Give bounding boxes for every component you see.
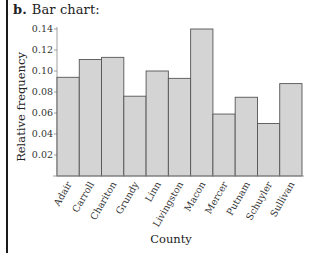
y-axis: 0.020.040.060.080.100.120.14 [32, 23, 57, 176]
bar-chariton [102, 57, 124, 176]
bar-macon [191, 29, 213, 176]
y-tick-label: 0.04 [32, 128, 53, 139]
x-axis: AdairCarrollCharitonGrundyLinnLivingston… [51, 176, 304, 229]
bar-linn [146, 71, 168, 176]
bar-livingston [168, 78, 190, 176]
x-tick-label: Adair [51, 179, 74, 208]
bars [57, 29, 302, 176]
y-tick-label: 0.02 [32, 149, 53, 160]
x-axis-label: County [150, 232, 192, 246]
y-tick-label: 0.12 [32, 44, 53, 55]
y-tick-label: 0.06 [32, 107, 53, 118]
bar-adair [57, 77, 79, 176]
y-tick-label: 0.14 [32, 23, 53, 34]
bar-sullivan [280, 84, 302, 176]
bar-grundy [124, 96, 146, 176]
bar-mercer [213, 114, 235, 176]
bar-schuyler [257, 124, 279, 177]
bar-putnam [235, 97, 257, 176]
y-axis-label: Relative frequency [14, 52, 28, 162]
x-tick-label: Linn [143, 180, 163, 204]
y-tick-label: 0.10 [32, 65, 53, 76]
y-tick-label: 0.08 [32, 86, 53, 97]
bar-carroll [79, 59, 101, 176]
bar-chart: 0.020.040.060.080.100.120.14 AdairCarrol… [0, 0, 314, 253]
